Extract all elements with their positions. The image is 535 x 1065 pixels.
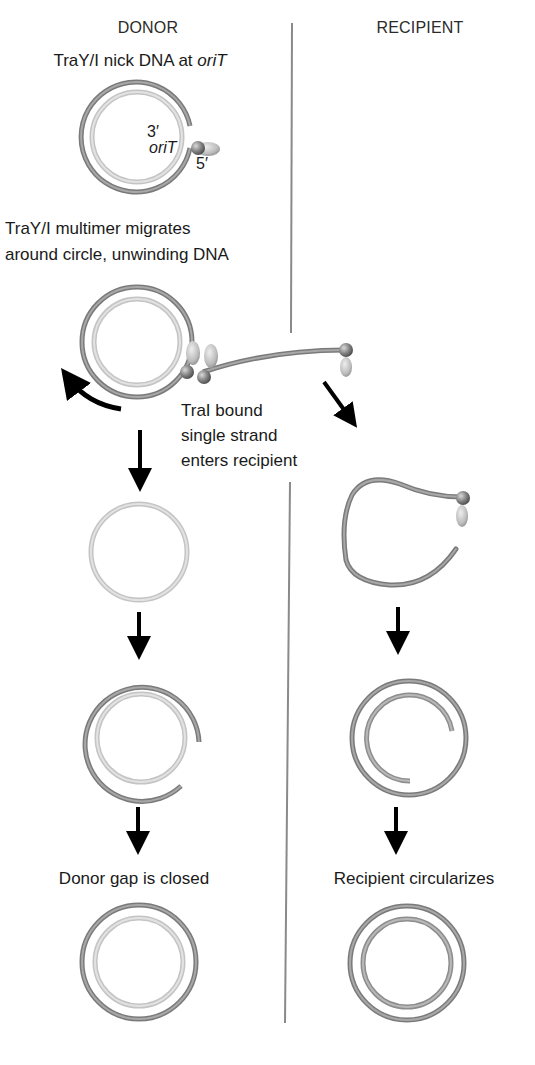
trai-protein-icon — [456, 491, 470, 505]
step-2-label-line-1: TraY/I multimer migrates — [5, 219, 190, 239]
transfer-arrow-icon — [324, 382, 350, 418]
step-3-label-line-3: enters recipient — [181, 451, 297, 471]
trai-protein-icon — [191, 141, 205, 155]
donor-column-header: DONOR — [118, 18, 179, 38]
step-2-label-line-2: around circle, unwinding DNA — [5, 245, 229, 265]
recipient-column-header: RECIPIENT — [376, 18, 463, 38]
donor-replacement-synthesis — [85, 687, 199, 801]
step-3-label-line-1: TraI bound — [181, 401, 263, 421]
donor-single-strand-circle — [91, 504, 187, 600]
recipient-single-strand-loop — [344, 480, 470, 585]
column-divider-top — [291, 23, 292, 333]
conjugation-diagram: DONOR RECIPIENT TraY/I nick DNA at oriT … — [0, 0, 535, 1065]
step-5-label: Recipient circularizes — [334, 869, 495, 889]
five-prime-label: 5′ — [196, 154, 208, 174]
trai-protein-icon — [339, 343, 353, 357]
recipient-complementary-synthesis — [352, 681, 466, 795]
rotation-arrow-icon — [70, 380, 121, 409]
donor-final-plasmid — [82, 905, 196, 1019]
step-3-label-line-2: single strand — [181, 426, 277, 446]
orit-term: oriT — [197, 51, 226, 70]
step-4-label: Donor gap is closed — [59, 869, 209, 889]
diagram-graphics — [0, 0, 535, 1065]
step-1-label: TraY/I nick DNA at oriT — [53, 51, 226, 71]
step-1-text: TraY/I nick DNA at — [53, 51, 197, 70]
donor-plasmid-unwinding — [82, 287, 353, 397]
column-divider-bottom — [285, 482, 290, 1023]
recipient-final-plasmid — [350, 906, 464, 1020]
orit-label: oriT — [149, 138, 177, 158]
